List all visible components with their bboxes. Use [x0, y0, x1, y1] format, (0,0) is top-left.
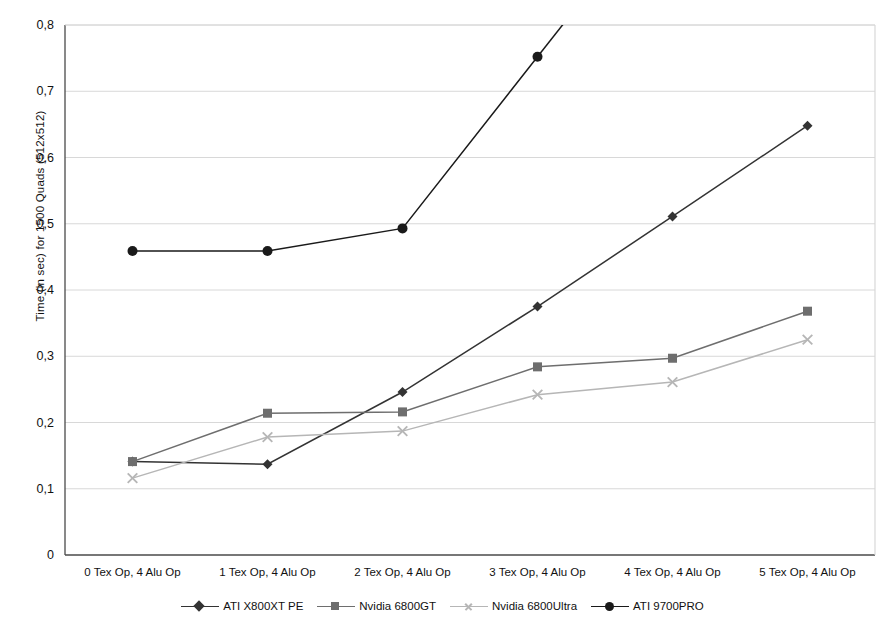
- x-tick-label: 5 Tex Op, 4 Alu Op: [728, 566, 885, 578]
- data-point-marker: [533, 52, 543, 62]
- series-line: [133, 57, 538, 251]
- chart-container: Time (in sec) for 1500 Quads (512x512) 0…: [0, 0, 885, 631]
- plot-area: [0, 0, 885, 631]
- legend-item[interactable]: Nvidia 6800Ultra: [450, 600, 577, 612]
- data-point-marker: [803, 121, 813, 131]
- data-point-marker: [533, 362, 542, 371]
- legend-diamond-icon: [181, 600, 219, 612]
- data-point-marker: [668, 211, 678, 221]
- data-point-marker: [398, 407, 407, 416]
- legend-item[interactable]: Nvidia 6800GT: [317, 600, 436, 612]
- legend-label: Nvidia 6800Ultra: [492, 600, 577, 612]
- data-point-marker: [398, 387, 408, 397]
- legend-label: Nvidia 6800GT: [359, 600, 436, 612]
- legend-square-icon: [317, 600, 355, 612]
- legend-item[interactable]: ATI X800XT PE: [181, 600, 303, 612]
- data-point-marker: [803, 307, 812, 316]
- data-point-marker: [128, 457, 137, 466]
- legend-item[interactable]: ATI 9700PRO: [591, 600, 704, 612]
- legend-circle-icon: [591, 600, 629, 612]
- data-point-marker: [263, 459, 273, 469]
- chart-legend: ATI X800XT PENvidia 6800GTNvidia 6800Ult…: [0, 600, 885, 612]
- data-point-marker: [263, 246, 273, 256]
- series-line-overflow: [538, 0, 612, 57]
- series-line: [133, 311, 808, 461]
- legend-x-icon: [450, 600, 488, 612]
- data-point-marker: [398, 223, 408, 233]
- legend-label: ATI 9700PRO: [633, 600, 704, 612]
- legend-label: ATI X800XT PE: [223, 600, 303, 612]
- data-point-marker: [668, 354, 677, 363]
- data-point-marker: [263, 409, 272, 418]
- data-point-marker: [128, 246, 138, 256]
- data-point-marker: [533, 302, 543, 312]
- series-line: [133, 340, 808, 478]
